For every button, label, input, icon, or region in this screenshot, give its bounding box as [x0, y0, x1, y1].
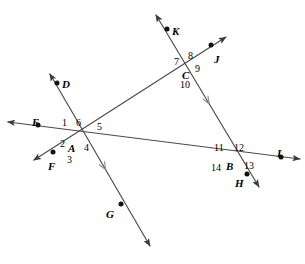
- angle-6-label: 6: [76, 118, 81, 128]
- angle-10-label: 10: [180, 80, 190, 90]
- angle-13-label: 13: [244, 161, 254, 171]
- angle-1-label: 1: [62, 118, 67, 128]
- point-label-G: G: [106, 209, 114, 220]
- point-dot-D: [55, 81, 60, 86]
- angle-2-label: 2: [60, 139, 65, 149]
- geometry-canvas: [0, 0, 305, 264]
- angle-12-label: 12: [234, 143, 244, 153]
- angle-11-label: 11: [214, 143, 224, 153]
- vertex-label-B: B: [226, 161, 233, 172]
- angle-3-label: 3: [67, 155, 72, 165]
- point-label-K: K: [172, 26, 179, 37]
- angle-5-label: 5: [97, 122, 102, 132]
- point-dots-group: [36, 27, 284, 207]
- point-label-I: I: [277, 148, 281, 159]
- angle-9-label: 9: [195, 64, 200, 74]
- angle-8-label: 8: [188, 51, 193, 61]
- point-dot-G: [119, 202, 124, 207]
- angle-4-label: 4: [84, 143, 89, 153]
- angle-7-label: 7: [174, 57, 179, 67]
- geometry-diagram: DEFGHIJKABC1234567891011121314: [0, 0, 305, 264]
- parallel-marks-group: [103, 100, 212, 174]
- point-dot-J: [209, 43, 214, 48]
- point-label-J: J: [214, 54, 220, 65]
- point-label-D: D: [62, 79, 70, 90]
- point-label-F: F: [48, 161, 55, 172]
- point-dot-F: [51, 150, 56, 155]
- angle-14-label: 14: [211, 163, 221, 173]
- point-label-E: E: [32, 117, 39, 128]
- point-label-H: H: [235, 178, 244, 189]
- point-dot-H: [245, 172, 250, 177]
- lines-group: [8, 15, 300, 246]
- line-DG: [50, 74, 150, 246]
- point-dot-K: [165, 27, 170, 32]
- vertex-label-A: A: [68, 143, 75, 154]
